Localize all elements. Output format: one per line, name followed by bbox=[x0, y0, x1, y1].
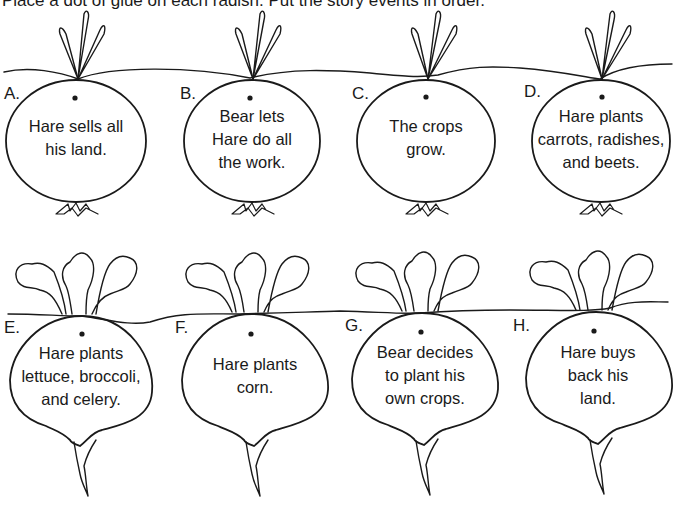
caption-line: Bear decides bbox=[350, 341, 500, 364]
caption-line: his land. bbox=[1, 138, 151, 161]
label-b: B. bbox=[180, 84, 196, 104]
caption-line: Hare plants bbox=[6, 342, 156, 365]
ground-line-top bbox=[4, 64, 672, 79]
caption-e: Hare plants lettuce, broccoli, and celer… bbox=[6, 342, 156, 411]
label-g: G. bbox=[345, 316, 363, 336]
caption-f: Hare plants corn. bbox=[180, 353, 330, 399]
caption-line: Hare sells all bbox=[1, 115, 151, 138]
caption-line: and celery. bbox=[6, 388, 156, 411]
caption-line: Hare plants bbox=[526, 105, 673, 128]
caption-g: Bear decides to plant his own crops. bbox=[350, 341, 500, 410]
glue-dot-a bbox=[72, 95, 77, 100]
label-c: C. bbox=[352, 84, 369, 104]
glue-dot-e bbox=[79, 331, 84, 336]
caption-line: corn. bbox=[180, 376, 330, 399]
label-d: D. bbox=[524, 82, 541, 102]
caption-c: The crops grow. bbox=[351, 115, 501, 161]
caption-line: carrots, radishes, bbox=[526, 128, 673, 151]
caption-line: own crops. bbox=[350, 387, 500, 410]
caption-line: land. bbox=[523, 387, 673, 410]
glue-dot-c bbox=[423, 94, 428, 99]
caption-line: and beets. bbox=[526, 151, 673, 174]
caption-line: Hare do all bbox=[177, 128, 327, 151]
caption-line: Bear lets bbox=[177, 105, 327, 128]
caption-d: Hare plants carrots, radishes, and beets… bbox=[526, 105, 673, 174]
caption-line: Hare buys bbox=[523, 341, 673, 364]
label-e: E. bbox=[4, 318, 20, 338]
caption-line: grow. bbox=[351, 138, 501, 161]
radish-c-drawing bbox=[357, 11, 495, 216]
caption-line: Hare plants bbox=[180, 353, 330, 376]
radish-a-drawing bbox=[6, 11, 146, 216]
glue-dot-h bbox=[591, 328, 596, 333]
glue-dot-f bbox=[248, 331, 253, 336]
caption-b: Bear lets Hare do all the work. bbox=[177, 105, 327, 174]
caption-line: lettuce, broccoli, bbox=[6, 365, 156, 388]
caption-h: Hare buys back his land. bbox=[523, 341, 673, 410]
caption-a: Hare sells all his land. bbox=[1, 115, 151, 161]
caption-line: back his bbox=[523, 364, 673, 387]
radish-illustrations bbox=[0, 0, 673, 508]
caption-line: The crops bbox=[351, 115, 501, 138]
glue-dot-b bbox=[247, 95, 252, 100]
glue-dot-g bbox=[418, 329, 423, 334]
label-f: F. bbox=[175, 318, 188, 338]
glue-dot-d bbox=[599, 94, 604, 99]
label-h: H. bbox=[513, 316, 530, 336]
label-a: A. bbox=[4, 84, 20, 104]
caption-line: to plant his bbox=[350, 364, 500, 387]
caption-line: the work. bbox=[177, 151, 327, 174]
